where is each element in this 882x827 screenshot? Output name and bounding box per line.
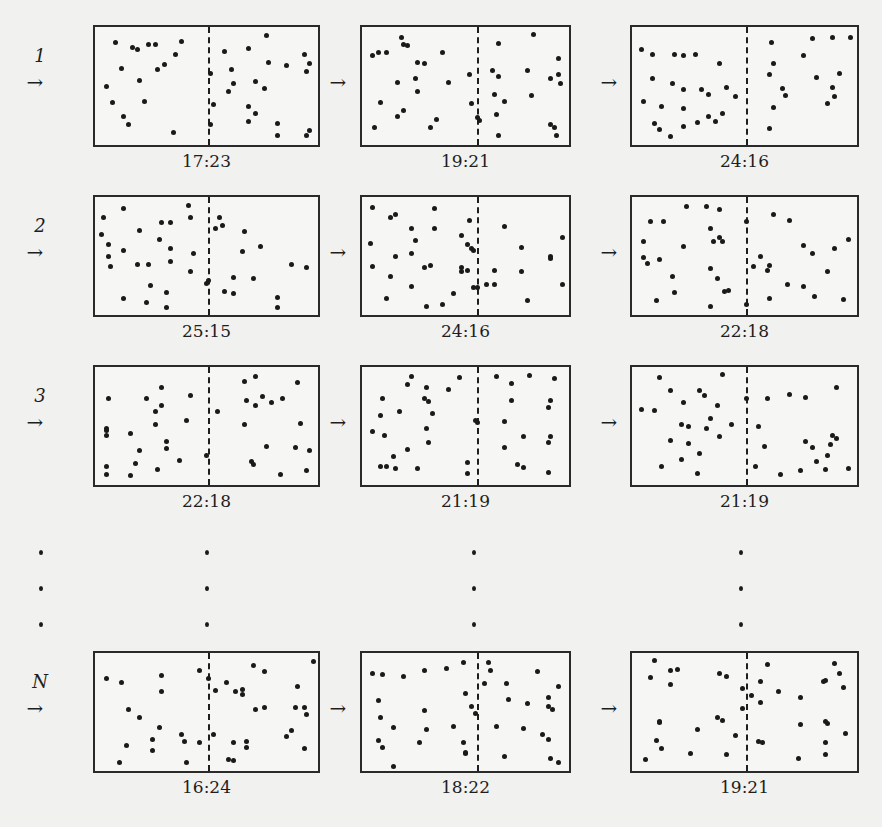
dot: [668, 668, 673, 673]
dot: [311, 659, 316, 664]
dot: [307, 61, 312, 66]
dot: [519, 245, 524, 250]
dot: [834, 436, 839, 441]
dot: [391, 764, 396, 769]
transition-arrow-icon: →: [323, 72, 353, 92]
ellipsis-dot-icon: [472, 550, 476, 555]
dot: [825, 453, 830, 458]
dot: [519, 269, 524, 274]
dot: [546, 695, 551, 700]
dashed-divider: [208, 27, 210, 145]
dot: [434, 117, 439, 122]
dot: [370, 53, 375, 58]
dot: [724, 85, 729, 90]
dot: [837, 71, 842, 76]
dot: [424, 426, 429, 431]
dot: [803, 395, 808, 400]
ratio-caption: 19:21: [685, 777, 805, 797]
dot: [244, 398, 249, 403]
dot: [801, 53, 806, 58]
dot: [382, 433, 387, 438]
dot: [531, 32, 536, 37]
dot: [767, 126, 772, 131]
dot: [708, 266, 713, 271]
dot: [463, 691, 468, 696]
dot: [717, 671, 722, 676]
dot: [767, 72, 772, 77]
dot: [211, 732, 216, 737]
dot: [258, 244, 263, 249]
dot: [780, 86, 785, 91]
dot: [726, 288, 731, 293]
dot: [459, 233, 464, 238]
dot: [215, 409, 220, 414]
dot: [233, 689, 238, 694]
dot: [253, 707, 258, 712]
ellipsis-dot-icon: [39, 550, 43, 555]
dot: [744, 219, 749, 224]
dot: [652, 408, 657, 413]
dot: [289, 728, 294, 733]
dot: [422, 265, 427, 270]
dot: [446, 387, 451, 392]
dot: [244, 745, 249, 750]
dot: [659, 464, 664, 469]
dot: [492, 282, 497, 287]
dot: [380, 672, 385, 677]
dot: [654, 298, 659, 303]
dot: [159, 220, 164, 225]
dot: [556, 684, 561, 689]
dot: [715, 403, 720, 408]
dot: [204, 453, 209, 458]
dot: [492, 92, 497, 97]
ellipsis-dot-icon: [205, 622, 209, 627]
dot: [451, 724, 456, 729]
dot: [432, 226, 437, 231]
dot: [502, 224, 507, 229]
dot: [253, 374, 258, 379]
dot: [765, 396, 770, 401]
dot: [104, 676, 109, 681]
dot: [659, 104, 664, 109]
dot-panel: [93, 195, 320, 317]
dot: [693, 52, 698, 57]
dot: [275, 121, 280, 126]
dashed-divider: [746, 197, 748, 315]
dot: [368, 241, 373, 246]
dot: [246, 46, 251, 51]
dot: [266, 60, 271, 65]
dot: [650, 52, 655, 57]
dot: [494, 374, 499, 379]
row-label: 1: [25, 45, 55, 66]
dot: [264, 33, 269, 38]
dot: [803, 439, 808, 444]
dot: [426, 399, 431, 404]
dot: [670, 81, 675, 86]
row-label: N: [25, 671, 55, 692]
dot: [171, 130, 176, 135]
dot: [765, 662, 770, 667]
dot: [117, 760, 122, 765]
dot: [104, 472, 109, 477]
dot-panel: [93, 651, 320, 773]
dot: [776, 689, 781, 694]
dot: [121, 296, 126, 301]
dot: [137, 715, 142, 720]
dot: [659, 746, 664, 751]
dot: [188, 393, 193, 398]
dot: [672, 290, 677, 295]
dot: [762, 444, 767, 449]
dot: [142, 99, 147, 104]
dot: [681, 124, 686, 129]
dot: [101, 215, 106, 220]
dashed-divider: [208, 653, 210, 771]
dot: [399, 35, 404, 40]
dot: [560, 235, 565, 240]
dot: [753, 464, 758, 469]
dot: [758, 700, 763, 705]
dot: [293, 445, 298, 450]
dot: [144, 300, 149, 305]
dot: [304, 468, 309, 473]
dot: [177, 458, 182, 463]
dot: [810, 251, 815, 256]
